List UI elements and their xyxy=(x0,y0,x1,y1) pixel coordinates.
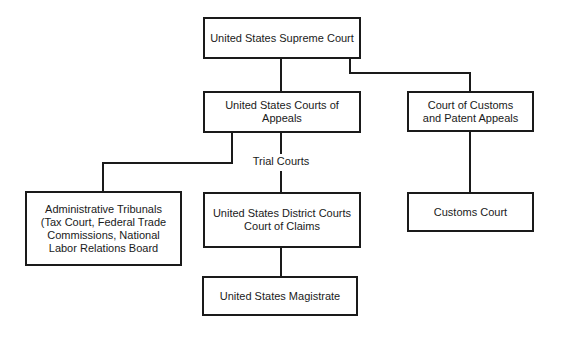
trial-courts-label: Trial Courts xyxy=(240,155,322,169)
edge-appeals-admin-v1 xyxy=(231,132,233,164)
edge-appeals-trial-v1 xyxy=(280,132,282,154)
supreme-court-label: United States Supreme Court xyxy=(210,32,354,45)
edge-supreme-appeals xyxy=(280,58,282,91)
customs-court-node: Customs Court xyxy=(407,192,534,232)
edge-trial-district-v2 xyxy=(280,171,282,192)
courts-of-appeals-node: United States Courts of Appeals xyxy=(203,91,361,133)
edge-district-magistrate xyxy=(280,247,282,276)
customs-patent-appeals-label: Court of Customs and Patent Appeals xyxy=(423,99,518,125)
supreme-court-node: United States Supreme Court xyxy=(203,17,361,59)
customs-court-label: Customs Court xyxy=(434,206,507,219)
edge-supreme-customs-v2 xyxy=(469,72,471,91)
customs-patent-appeals-node: Court of Customs and Patent Appeals xyxy=(407,91,534,132)
magistrate-label: United States Magistrate xyxy=(220,290,340,303)
courts-of-appeals-label: United States Courts of Appeals xyxy=(205,99,359,125)
edge-appeals-admin-v2 xyxy=(102,162,104,191)
magistrate-node: United States Magistrate xyxy=(202,276,358,316)
district-courts-node: United States District Courts Court of C… xyxy=(203,192,361,248)
edge-customs-appeals-court xyxy=(469,131,471,192)
administrative-tribunals-label: Administrative Tribunals (Tax Court, Fed… xyxy=(41,203,166,255)
edge-supreme-customs-h xyxy=(349,72,471,74)
district-courts-label: United States District Courts Court of C… xyxy=(213,207,351,233)
edge-appeals-admin-h xyxy=(102,162,233,164)
administrative-tribunals-node: Administrative Tribunals (Tax Court, Fed… xyxy=(25,191,182,266)
